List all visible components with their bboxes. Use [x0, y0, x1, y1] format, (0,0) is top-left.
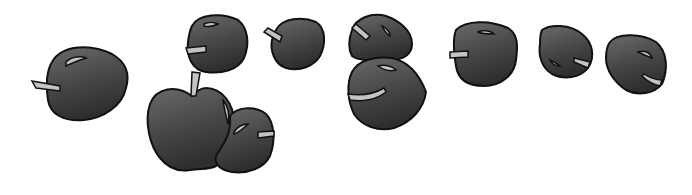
apple-stem	[450, 51, 468, 58]
apple	[32, 47, 127, 120]
apples-illustration	[0, 0, 692, 195]
apple	[349, 15, 412, 61]
apple	[186, 15, 247, 72]
apple	[540, 26, 593, 77]
apple-body	[349, 15, 412, 61]
apple-stem	[186, 46, 206, 54]
apple-body	[540, 26, 593, 77]
apple-stem	[258, 131, 274, 138]
apple	[606, 35, 666, 93]
apple-body	[272, 19, 325, 70]
apple	[264, 19, 324, 70]
apple	[348, 58, 426, 130]
apple	[450, 22, 517, 86]
